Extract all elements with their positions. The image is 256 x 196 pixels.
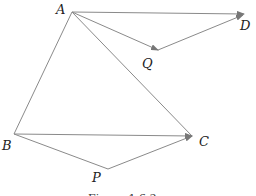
point-label-D: D: [239, 18, 251, 33]
segment-AC: [72, 12, 192, 136]
segment-AB: [14, 12, 72, 134]
vector-QD: [158, 15, 243, 50]
point-label-C: C: [199, 134, 209, 149]
point-label-Q: Q: [142, 56, 153, 71]
figure-caption: Figure 1.6.3: [88, 192, 157, 196]
point-label-P: P: [91, 170, 101, 185]
vector-BC: [14, 134, 192, 136]
vector-diagram: A D Q B C P Figure 1.6.3: [0, 0, 256, 196]
vector-AD: [72, 12, 244, 14]
segment-BP: [14, 134, 108, 169]
vector-AQ: [72, 12, 158, 50]
vector-PC: [108, 136, 192, 169]
point-label-B: B: [1, 138, 12, 153]
point-label-A: A: [55, 2, 65, 17]
